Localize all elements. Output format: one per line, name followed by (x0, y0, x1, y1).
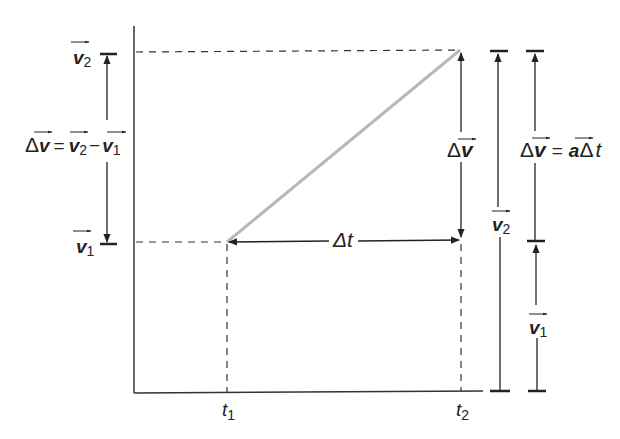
delta-t-label: Δt (332, 228, 354, 251)
v2-guide (136, 50, 460, 52)
right-delta-v-equation: Δv=aΔt (520, 138, 602, 161)
v1-label: v1 (76, 236, 95, 259)
right-delta-v-bar: Δv=aΔt v1 (520, 51, 602, 391)
velocity-time-diagram: Δt Δv v2 v1 Δv=v2−v1 t1 t2 v2 (0, 0, 620, 439)
x-axis (134, 391, 483, 393)
delta-t-arrow: Δt (229, 228, 459, 251)
dashed-guides (136, 50, 461, 392)
right-v1-label: v1 (529, 317, 548, 340)
t2-label: t2 (456, 399, 469, 423)
right-v2-bar: v2 (490, 51, 511, 391)
left-annotation: v2 v1 Δv=v2−v1 (25, 42, 126, 259)
delta-v-label: Δv (447, 138, 474, 161)
right-v2-label: v2 (492, 214, 511, 237)
delta-v-arrow: Δv (447, 53, 476, 237)
axes (134, 26, 483, 393)
left-delta-v-equation: Δv=v2−v1 (25, 133, 121, 158)
v2-label: v2 (73, 47, 92, 70)
t1-label: t1 (222, 399, 235, 423)
velocity-line (227, 50, 460, 242)
